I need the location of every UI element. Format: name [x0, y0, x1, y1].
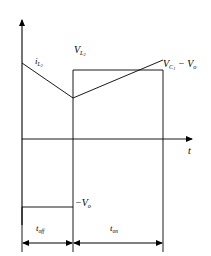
voltage-high-label: VL2 — [74, 45, 86, 55]
waveform-figure: iL2 VL2 VC1 − Vo −Vo t toff ton — [0, 0, 211, 256]
waveform-drawing — [0, 0, 211, 256]
voltage-low-label: −Vo — [75, 198, 91, 208]
voltage-low-base: −V — [75, 197, 88, 208]
voltage-right-tail: − V — [175, 58, 193, 69]
voltage-right-label: VC1 − Vo — [163, 59, 196, 69]
voltage-right-subsub: 1 — [173, 66, 175, 71]
voltage-square-wave — [22, 70, 163, 207]
voltage-right-tail-sub: o — [193, 63, 196, 70]
toff-label: toff — [36, 224, 44, 233]
voltage-high-subsub: 2 — [84, 52, 86, 57]
ton-sub: on — [113, 228, 119, 234]
current-label-subsub: 2 — [41, 64, 43, 68]
toff-sub: off — [39, 228, 45, 234]
time-axis-label: t — [188, 146, 191, 156]
voltage-low-sub: o — [88, 202, 91, 209]
ton-label: ton — [110, 224, 118, 233]
current-waveform-label: iL2 — [35, 57, 43, 66]
current-ripple-waveform — [22, 60, 163, 98]
